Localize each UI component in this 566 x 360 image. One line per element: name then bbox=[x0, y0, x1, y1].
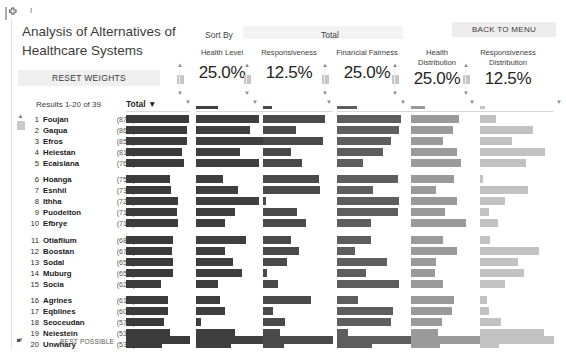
spinner-track bbox=[179, 69, 180, 89]
spinner-thumb[interactable] bbox=[322, 75, 329, 84]
spinner-thumb[interactable] bbox=[392, 75, 399, 84]
table-row[interactable]: 6Hoanga(75.0) bbox=[26, 174, 566, 185]
table-row[interactable]: 11Otiaflium(68.8) bbox=[26, 235, 566, 246]
weight-spinner-5[interactable]: ▲▼ bbox=[462, 62, 470, 96]
column-weight-marker bbox=[337, 106, 357, 109]
spinner-down-icon[interactable]: ▼ bbox=[244, 90, 250, 96]
chevron-down-icon[interactable]: ▼ bbox=[252, 99, 258, 105]
bar-total bbox=[126, 296, 168, 304]
bar-c4 bbox=[411, 269, 435, 277]
weight-spinner-3[interactable]: ▲▼ bbox=[321, 62, 329, 96]
scrollbar-thumb[interactable] bbox=[17, 121, 25, 130]
row-name: Puodeiton bbox=[43, 207, 81, 218]
table-row[interactable]: 3Efros(85.0) bbox=[26, 136, 566, 147]
bar-c1 bbox=[196, 269, 242, 277]
bar-c1 bbox=[196, 318, 201, 326]
row-rank: 19 bbox=[26, 328, 39, 339]
bar-total bbox=[126, 175, 170, 183]
bar-c5 bbox=[480, 280, 505, 288]
weight-column-2: Responsiveness12.5% bbox=[247, 48, 331, 83]
bar-c2 bbox=[263, 258, 287, 266]
spinner-up-icon[interactable]: ▲ bbox=[177, 62, 183, 68]
bar-c1 bbox=[196, 197, 259, 205]
table-row[interactable]: 12Boostan(67.5) bbox=[26, 246, 566, 257]
spinner-up-icon[interactable]: ▲ bbox=[244, 62, 250, 68]
bar-c1 bbox=[196, 115, 259, 123]
bar-c3 bbox=[337, 280, 399, 288]
column-weight-marker bbox=[196, 106, 218, 109]
spinner-thumb[interactable] bbox=[463, 75, 470, 84]
spinner-thumb[interactable] bbox=[244, 75, 251, 84]
bar-c5 bbox=[480, 296, 487, 304]
best-possible-bar-c4 bbox=[411, 336, 481, 344]
table-row[interactable]: 13Sodal(65.0) bbox=[26, 257, 566, 268]
row-name: Gaqua bbox=[43, 125, 67, 136]
bar-total bbox=[126, 208, 177, 216]
bar-c3 bbox=[337, 236, 371, 244]
spinner-down-icon[interactable]: ▼ bbox=[322, 90, 328, 96]
chevron-down-icon[interactable]: ▼ bbox=[469, 99, 475, 105]
bar-total bbox=[126, 318, 164, 326]
row-name: Heiestan bbox=[43, 147, 76, 158]
bar-total bbox=[126, 280, 161, 288]
bar-c5 bbox=[480, 148, 545, 156]
table-row[interactable]: 1Foujan(87.5) bbox=[26, 114, 566, 125]
bar-c5 bbox=[480, 318, 501, 326]
bar-c4 bbox=[411, 280, 443, 288]
bar-c3 bbox=[337, 307, 393, 315]
spinner-up-icon[interactable]: ▲ bbox=[322, 62, 328, 68]
table-row[interactable]: 18Seoceudan(57.5) bbox=[26, 317, 566, 328]
bar-c5 bbox=[480, 208, 489, 216]
spinner-down-icon[interactable]: ▼ bbox=[177, 90, 183, 96]
spinner-up-icon[interactable]: ▲ bbox=[392, 62, 398, 68]
row-rank: 7 bbox=[26, 185, 39, 196]
table-row[interactable]: 15Socia(62.5) bbox=[26, 279, 566, 290]
table-row[interactable]: 7Esnhil(73.8) bbox=[26, 185, 566, 196]
bar-c5 bbox=[480, 126, 533, 134]
chevron-down-icon[interactable]: ▼ bbox=[185, 99, 191, 105]
bar-c3 bbox=[337, 247, 355, 255]
page-title: Analysis of Alternatives of Healthcare S… bbox=[22, 22, 202, 60]
bar-c3 bbox=[337, 219, 371, 227]
weight-spinner-4[interactable]: ▲▼ bbox=[391, 62, 399, 96]
chevron-down-icon[interactable]: ▼ bbox=[326, 99, 332, 105]
table-row[interactable]: 16Agrines(61.3) bbox=[26, 295, 566, 306]
chevron-down-icon[interactable]: ▼ bbox=[556, 99, 562, 105]
bar-total bbox=[126, 307, 168, 315]
table-row[interactable]: 4Heiestan(81.3) bbox=[26, 147, 566, 158]
total-top-label: Total bbox=[321, 30, 339, 40]
column-underline bbox=[337, 111, 417, 112]
weight-spinner-2[interactable]: ▲▼ bbox=[243, 62, 251, 96]
list-scrollbar[interactable]: ▲ ▼ bbox=[16, 112, 25, 344]
total-column-header[interactable]: Total ▼ bbox=[126, 99, 156, 109]
weight-label: Health Distribution bbox=[409, 48, 465, 68]
spinner-up-icon[interactable]: ▲ bbox=[463, 62, 469, 68]
chevron-down-icon[interactable]: ▼ bbox=[400, 99, 406, 105]
bar-c4 bbox=[411, 208, 445, 216]
bar-c5 bbox=[480, 159, 526, 167]
bar-c1 bbox=[196, 247, 225, 255]
spinner-down-icon[interactable]: ▼ bbox=[392, 90, 398, 96]
bar-c3 bbox=[337, 148, 383, 156]
row-name: Esnhil bbox=[43, 185, 66, 196]
table-row[interactable]: 5Ecaislana(76.3) bbox=[26, 158, 566, 169]
row-name: Agrines bbox=[43, 295, 72, 306]
spinner-down-icon[interactable]: ▼ bbox=[463, 90, 469, 96]
bar-c1 bbox=[196, 126, 250, 134]
table-row[interactable]: 8Ithha(72.5) bbox=[26, 196, 566, 207]
table-row[interactable]: 17Eqblines(60.0) bbox=[26, 306, 566, 317]
table-row[interactable]: 9Puodeiton(71.3) bbox=[26, 207, 566, 218]
reset-weights-button[interactable]: RESET WEIGHTS bbox=[18, 70, 160, 86]
row-rank: 3 bbox=[26, 136, 39, 147]
scroll-up-icon[interactable]: ▲ bbox=[16, 112, 25, 120]
bar-c2 bbox=[263, 148, 291, 156]
spinner-track bbox=[465, 69, 466, 89]
table-row[interactable]: 10Efbrye(71.3) bbox=[26, 218, 566, 229]
spinner-thumb[interactable] bbox=[177, 75, 184, 84]
table-row[interactable]: 2Gaqua(86.3) bbox=[26, 125, 566, 136]
back-to-menu-button[interactable]: BACK TO MENU bbox=[452, 22, 556, 37]
row-name: Ithha bbox=[43, 196, 62, 207]
table-row[interactable]: 14Muburg(65.0) bbox=[26, 268, 566, 279]
bar-total bbox=[126, 159, 184, 167]
weight-spinner-1[interactable]: ▲▼ bbox=[176, 62, 184, 96]
